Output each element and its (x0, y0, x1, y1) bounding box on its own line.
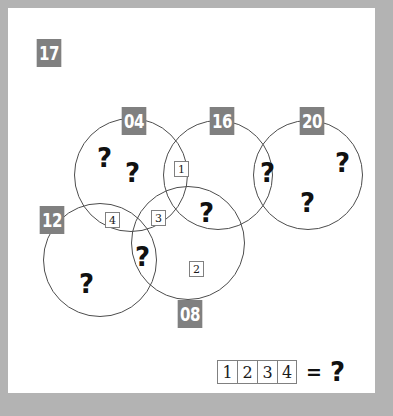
equation-box-4: 4 (277, 360, 297, 384)
answer-placeholder: ? (330, 359, 345, 385)
equation-box-1: 1 (217, 360, 237, 384)
equation-row: 1234 = ? (217, 359, 345, 385)
circle-badge-08: 08 (178, 300, 203, 328)
question-mark: ? (300, 190, 315, 216)
question-mark: ? (135, 244, 150, 270)
region-tile-2: 2 (189, 261, 204, 277)
equation-box-3: 3 (257, 360, 277, 384)
puzzle-id-badge: 17 (37, 39, 62, 67)
equation-boxes: 1234 (217, 360, 297, 384)
question-mark: ? (125, 160, 140, 186)
region-tile-3: 3 (151, 210, 166, 226)
puzzle-card: 17 0416201208 1234 ???????? 1234 = ? (8, 8, 375, 393)
circle-badge-04: 04 (122, 107, 147, 135)
question-mark: ? (79, 271, 94, 297)
region-tile-4: 4 (105, 212, 120, 228)
question-mark: ? (97, 145, 112, 171)
circle-badge-16: 16 (210, 107, 235, 135)
question-mark: ? (260, 160, 275, 186)
question-mark: ? (199, 200, 214, 226)
circle-badge-20: 20 (300, 107, 325, 135)
circle-badge-12: 12 (40, 206, 65, 234)
equation-box-2: 2 (237, 360, 257, 384)
region-tile-1: 1 (174, 161, 189, 177)
question-mark: ? (335, 150, 350, 176)
equals-sign: = (306, 360, 322, 384)
